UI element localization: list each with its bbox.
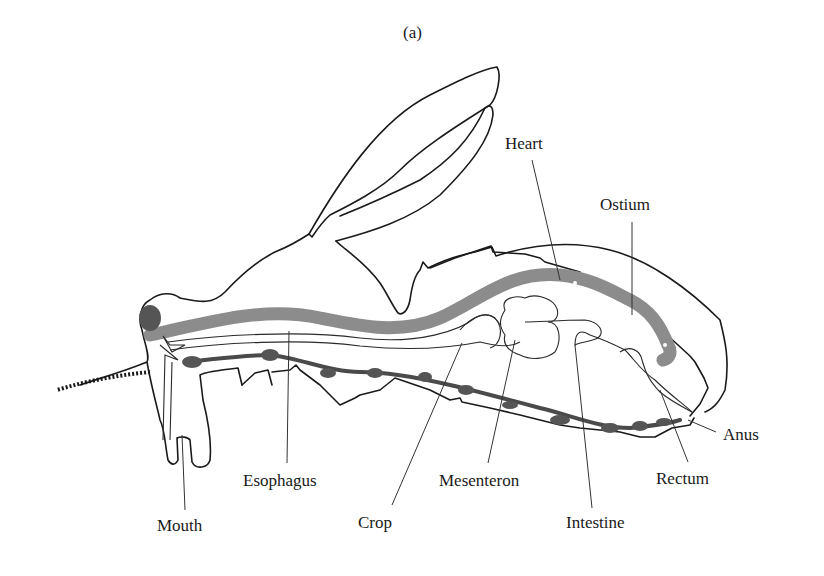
ganglion <box>502 401 518 409</box>
figure-caption: (a) <box>403 24 422 41</box>
ostium-pore <box>663 343 667 347</box>
insect-anatomy-diagram <box>0 0 824 576</box>
label-mesenteron: Mesenteron <box>439 472 519 489</box>
heart-dorsal-vessel <box>150 274 670 360</box>
ganglion <box>182 356 202 368</box>
label-crop: Crop <box>358 514 392 531</box>
crop-outline <box>460 315 500 348</box>
antenna <box>57 372 150 390</box>
wing-upper <box>309 67 499 237</box>
label-ostium: Ostium <box>600 196 650 213</box>
leader-anus <box>688 420 716 432</box>
label-rectum: Rectum <box>656 470 709 487</box>
wing-lower <box>336 106 493 241</box>
label-heart: Heart <box>505 135 543 152</box>
ganglion <box>261 349 279 361</box>
ganglion <box>367 368 383 378</box>
label-esophagus: Esophagus <box>243 472 317 489</box>
leader-intestine <box>575 345 592 508</box>
ganglion <box>632 421 648 431</box>
ganglion <box>418 372 432 382</box>
brain <box>139 305 161 331</box>
label-mouth: Mouth <box>157 517 202 534</box>
ganglion <box>458 385 474 395</box>
leader-esophagus <box>287 331 289 463</box>
ganglion <box>550 415 570 425</box>
ganglion <box>601 423 619 433</box>
label-intestine: Intestine <box>566 514 625 531</box>
ostium-pore <box>573 281 577 285</box>
esophagus-tube-inner <box>170 342 520 350</box>
leader-mouth <box>182 435 185 510</box>
label-anus: Anus <box>723 426 759 443</box>
ganglion <box>320 368 336 378</box>
ganglion <box>656 418 672 426</box>
mesenteron-outline <box>500 296 559 358</box>
